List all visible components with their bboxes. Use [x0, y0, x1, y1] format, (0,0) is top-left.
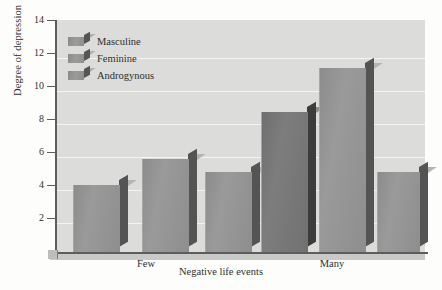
chart-legend: Masculine Feminine Androgynous	[68, 33, 154, 84]
bar-masculine-many	[261, 112, 307, 252]
y-tick-label-2: 2	[18, 212, 44, 223]
x-axis-line	[50, 252, 428, 254]
y-tick-label-6: 6	[18, 146, 44, 157]
bar-front-face	[319, 68, 366, 252]
y-tick-label-4: 4	[18, 179, 44, 190]
y-tick-4	[47, 185, 55, 186]
bar-feminine-many	[319, 68, 365, 252]
legend-swatch-icon	[68, 37, 90, 46]
y-tick-6	[47, 152, 55, 153]
bar-front-face	[205, 172, 252, 252]
bar-androgynous-many	[377, 172, 419, 252]
legend-item-masculine: Masculine	[68, 33, 154, 50]
bar-front-face	[73, 185, 120, 252]
x-axis-title: Negative life events	[0, 266, 442, 277]
y-tick-12	[47, 53, 55, 54]
bar-front-face	[142, 159, 189, 252]
legend-swatch-icon	[68, 54, 90, 63]
y-tick-label-8: 8	[18, 113, 44, 124]
y-tick-label-10: 10	[18, 80, 44, 91]
bar-side-face	[307, 102, 316, 247]
y-tick-label-14: 14	[18, 14, 44, 25]
legend-label: Masculine	[97, 36, 141, 47]
bar-side-face	[188, 149, 197, 247]
bar-front-face	[261, 112, 308, 252]
bar-masculine-few	[73, 185, 119, 252]
bar-side-face	[419, 162, 428, 247]
bar-feminine-few	[142, 159, 188, 252]
bar-front-face	[377, 172, 420, 252]
y-tick-label-12: 12	[18, 47, 44, 58]
bar-chart-figure: Degree of depression	[0, 0, 442, 290]
legend-swatch-icon	[68, 71, 90, 80]
legend-item-feminine: Feminine	[68, 50, 154, 67]
bar-androgynous-few	[205, 172, 251, 252]
y-tick-14	[47, 20, 55, 21]
y-axis-line	[55, 20, 57, 254]
y-tick-10	[47, 86, 55, 87]
axis-corner	[48, 250, 58, 259]
bar-side-face	[365, 58, 374, 247]
legend-item-androgynous: Androgynous	[68, 67, 154, 84]
legend-label: Feminine	[97, 53, 137, 64]
y-tick-8	[47, 119, 55, 120]
y-tick-2	[47, 218, 55, 219]
bar-side-face	[251, 162, 260, 247]
legend-label: Androgynous	[97, 70, 154, 81]
bar-side-face	[119, 175, 128, 247]
